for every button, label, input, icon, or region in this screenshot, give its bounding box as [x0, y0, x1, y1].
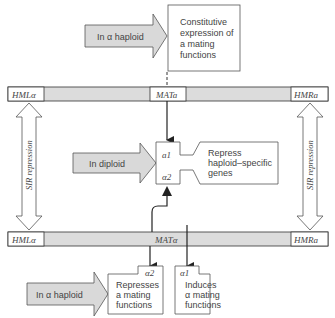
locus-hmr-bottom-label: HMRa [293, 235, 318, 245]
complex-alpha2-label: α2 [162, 172, 172, 182]
alpha1-tag: α1 [180, 268, 189, 278]
result-line-3: genes [208, 168, 233, 178]
locus-hmr-top-label: HMRa [293, 90, 318, 100]
alpha1-line-2: α mating [185, 290, 220, 300]
locus-hml-top-label: HMLα [11, 90, 36, 100]
locus-mat-a-label: MATa [155, 90, 178, 100]
alpha1-line-1: Induces [185, 280, 217, 290]
diploid-arrow: In diploid [73, 143, 156, 183]
a1-alpha2-complex: a1 α2 Repress haploid–specific genes [156, 142, 278, 184]
sir-left-label: SIR repression [24, 140, 34, 190]
result-line-2: haploid–specific [208, 158, 273, 168]
up-arrowhead [162, 186, 172, 196]
alpha1-box: α1 Induces α mating functions [175, 266, 222, 314]
result-line-1: Repress [208, 148, 242, 158]
chromosome-mata: HMLα MATa HMRa [8, 87, 328, 101]
alpha2-line-2: a mating [116, 290, 151, 300]
alpha2-line-1: Represses [116, 280, 160, 290]
alpha2-box: α2 Represses a mating functions [108, 266, 163, 314]
alpha2-tag: α2 [145, 268, 155, 278]
sir-right-label: SIR repression [305, 140, 315, 190]
sir-repression-left: SIR repression [16, 103, 42, 230]
box-line-3: a mating [180, 39, 215, 49]
alpha1-line-3: functions [185, 300, 222, 310]
locus-mat-alpha-label: MATα [154, 235, 178, 245]
box-line-1: Constitutive [180, 17, 227, 27]
top-haploid-arrow: In α haploid [85, 14, 167, 58]
alpha2-line-3: functions [116, 300, 153, 310]
bottom-haploid-arrow: In α haploid [27, 272, 108, 316]
box-line-2: expression of [180, 28, 234, 38]
constitutive-expression-box: Constitutive expression of a mating func… [168, 5, 240, 71]
complex-a1-label: a1 [162, 150, 171, 160]
box-line-4: functions [180, 50, 217, 60]
top-haploid-arrow-label: In α haploid [97, 32, 144, 42]
bottom-haploid-arrow-label: In α haploid [36, 290, 83, 300]
mating-type-diagram: In α haploid Constitutive expression of … [0, 0, 335, 318]
sir-repression-right: SIR repression [297, 103, 323, 230]
locus-hml-bottom-label: HMLα [11, 235, 36, 245]
diploid-arrow-label: In diploid [89, 159, 125, 169]
chromosome-matalpha: HMLα MATα HMRa [8, 232, 328, 246]
